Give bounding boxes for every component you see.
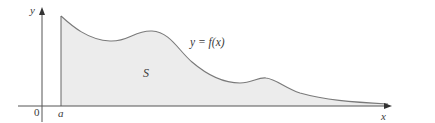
x-axis-label: x [381, 111, 386, 122]
y-axis-arrow-icon [39, 7, 45, 15]
curve-label: y = f(x) [190, 37, 225, 49]
origin-label: 0 [34, 107, 40, 118]
lower-bound-label: a [58, 108, 64, 119]
area-under-curve-diagram [0, 0, 435, 123]
region-s-fill [61, 16, 388, 106]
y-axis-label: y [30, 5, 35, 16]
region-label: S [143, 67, 149, 79]
